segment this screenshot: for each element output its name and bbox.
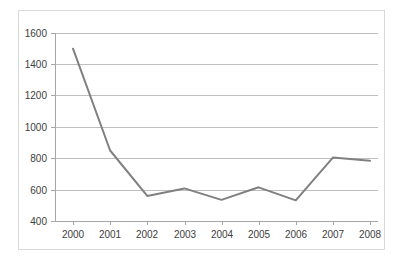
gridlines — [55, 33, 378, 190]
x-tick-marks — [73, 221, 370, 225]
y-axis-tick-labels: 1600 1400 1200 1000 800 600 400 — [25, 28, 48, 227]
y-tick-label-1000: 1000 — [25, 122, 48, 133]
x-tick-label-2000: 2000 — [62, 229, 85, 240]
y-tick-label-800: 800 — [30, 153, 47, 164]
chart-container: 1600 1400 1200 1000 800 600 400 2000 200… — [0, 0, 407, 264]
data-series-line — [73, 49, 370, 201]
x-tick-label-2002: 2002 — [136, 229, 159, 240]
y-tick-marks — [51, 33, 55, 221]
x-tick-label-2004: 2004 — [211, 229, 234, 240]
y-tick-label-400: 400 — [30, 216, 47, 227]
x-tick-label-2001: 2001 — [99, 229, 122, 240]
x-tick-label-2008: 2008 — [359, 229, 382, 240]
y-tick-label-1600: 1600 — [25, 28, 48, 39]
x-axis-tick-labels: 2000 2001 2002 2003 2004 2005 2006 2007 … — [62, 229, 382, 240]
y-tick-label-600: 600 — [30, 185, 47, 196]
x-tick-label-2003: 2003 — [174, 229, 197, 240]
x-tick-label-2007: 2007 — [322, 229, 345, 240]
x-tick-label-2005: 2005 — [248, 229, 271, 240]
y-tick-label-1200: 1200 — [25, 90, 48, 101]
line-chart-svg: 1600 1400 1200 1000 800 600 400 2000 200… — [0, 0, 407, 264]
y-tick-label-1400: 1400 — [25, 59, 48, 70]
x-tick-label-2006: 2006 — [285, 229, 308, 240]
